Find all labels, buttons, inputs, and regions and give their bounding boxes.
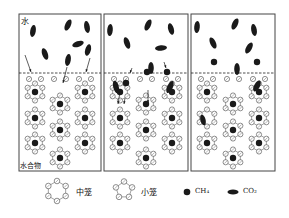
water-label: 水 bbox=[21, 15, 29, 26]
hydrate-label: 水合物 bbox=[20, 160, 41, 170]
legend-medium-cage-label: 中笼 bbox=[76, 186, 92, 197]
panels bbox=[19, 14, 275, 171]
legend-co2-label: CO₂ bbox=[243, 187, 257, 195]
legend-small-cage-icon bbox=[113, 179, 135, 200]
legend-small-cage-label: 小笼 bbox=[141, 186, 157, 197]
panel-1 bbox=[19, 14, 101, 171]
legend-co2-icon bbox=[228, 189, 239, 194]
panel-2 bbox=[104, 14, 188, 171]
panel-3 bbox=[191, 14, 275, 171]
legend-ch4-label: CH₄ bbox=[195, 187, 209, 195]
legend-medium-cage-icon bbox=[46, 178, 69, 204]
legend-ch4-icon bbox=[184, 189, 191, 196]
